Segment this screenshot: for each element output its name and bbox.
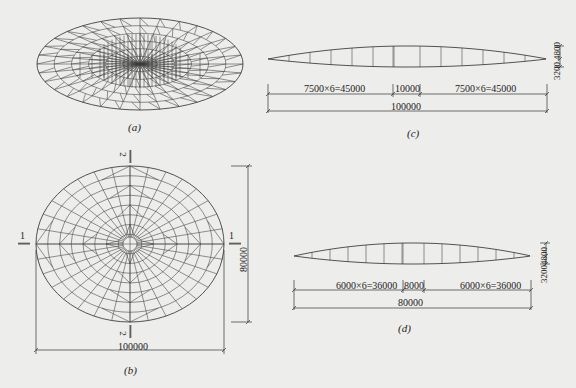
d-dim-left-label: 6000×6=36000 xyxy=(336,281,397,291)
c-dim-total-label: 100000 xyxy=(391,102,421,112)
c-height-upper-label: 4800 xyxy=(553,42,562,60)
d-dim-right-label: 6000×6=36000 xyxy=(460,281,521,291)
section-mark-2-bottom: 2 xyxy=(118,331,127,336)
figure-canvas: (a) (b) (c) (d) 1 1 2 2 100000 80000 750… xyxy=(0,0,576,388)
c-dim-center-label: 10000 xyxy=(395,84,420,94)
c-dim-right-label: 7500×6=45000 xyxy=(455,84,516,94)
panel-a-caption: (a) xyxy=(128,122,141,133)
d-dim-total-label: 80000 xyxy=(398,298,423,308)
section-mark-2-top: 2 xyxy=(118,152,127,157)
panel-d-caption: (d) xyxy=(398,323,411,334)
panel-b-caption: (b) xyxy=(124,365,137,376)
c-dim-left-label: 7500×6=45000 xyxy=(304,84,365,94)
panel-d-section-drawing xyxy=(0,0,576,388)
d-height-lower-label: 3200 xyxy=(540,265,549,283)
section-mark-1-right: 1 xyxy=(229,231,234,241)
d-dim-center-label: 8000 xyxy=(404,281,424,291)
dim-width-label: 100000 xyxy=(118,342,148,352)
c-height-lower-label: 3200 xyxy=(553,62,562,80)
d-height-upper-label: 4800 xyxy=(540,247,549,265)
dim-height-label: 80000 xyxy=(239,247,249,272)
panel-c-caption: (c) xyxy=(407,128,419,139)
section-mark-1-left: 1 xyxy=(20,231,25,241)
